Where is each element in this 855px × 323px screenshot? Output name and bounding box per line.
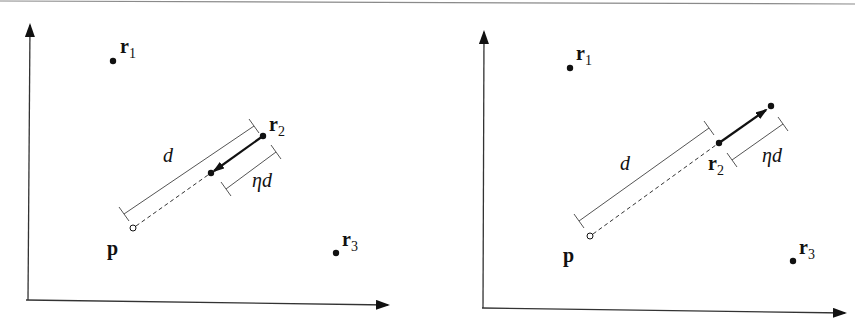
- label-eta-d: ηd: [252, 169, 273, 192]
- point-moved: [208, 170, 214, 176]
- figure: r1 r2 p r3 d ηd r1 r2 p: [0, 0, 855, 323]
- point-p: [130, 225, 136, 231]
- label-r3: r3: [799, 236, 815, 262]
- x-axis: [482, 308, 845, 313]
- point-r1: [110, 58, 116, 64]
- label-r2: r2: [708, 152, 724, 178]
- label-r2: r2: [269, 113, 285, 139]
- label-r1: r1: [576, 42, 592, 68]
- label-r1: r1: [120, 35, 136, 61]
- label-eta-d: ηd: [762, 144, 783, 167]
- point-r3: [790, 258, 796, 264]
- move-arrow: [719, 110, 766, 143]
- right-panel: r1 r2 p r3 d ηd: [482, 32, 845, 313]
- point-r1: [567, 65, 573, 71]
- point-r3: [333, 250, 339, 256]
- move-arrow: [214, 136, 263, 171]
- point-p: [587, 233, 593, 239]
- y-axis: [28, 25, 30, 300]
- dashed-connector: [593, 145, 716, 234]
- point-r2: [260, 133, 266, 139]
- top-rule: [0, 1, 855, 4]
- left-panel: r1 r2 p r3 d ηd: [26, 25, 388, 305]
- label-p: p: [563, 244, 574, 267]
- x-axis: [26, 300, 388, 305]
- eta-d-bracket: [221, 145, 281, 196]
- dashed-connector: [136, 175, 208, 226]
- label-d: d: [163, 144, 174, 166]
- label-p: p: [107, 237, 118, 260]
- point-moved: [768, 103, 774, 109]
- label-d: d: [620, 152, 631, 174]
- label-r3: r3: [342, 228, 358, 254]
- point-r2: [716, 140, 722, 146]
- y-axis: [483, 32, 484, 308]
- d-bracket: [119, 119, 259, 221]
- d-bracket: [574, 121, 714, 228]
